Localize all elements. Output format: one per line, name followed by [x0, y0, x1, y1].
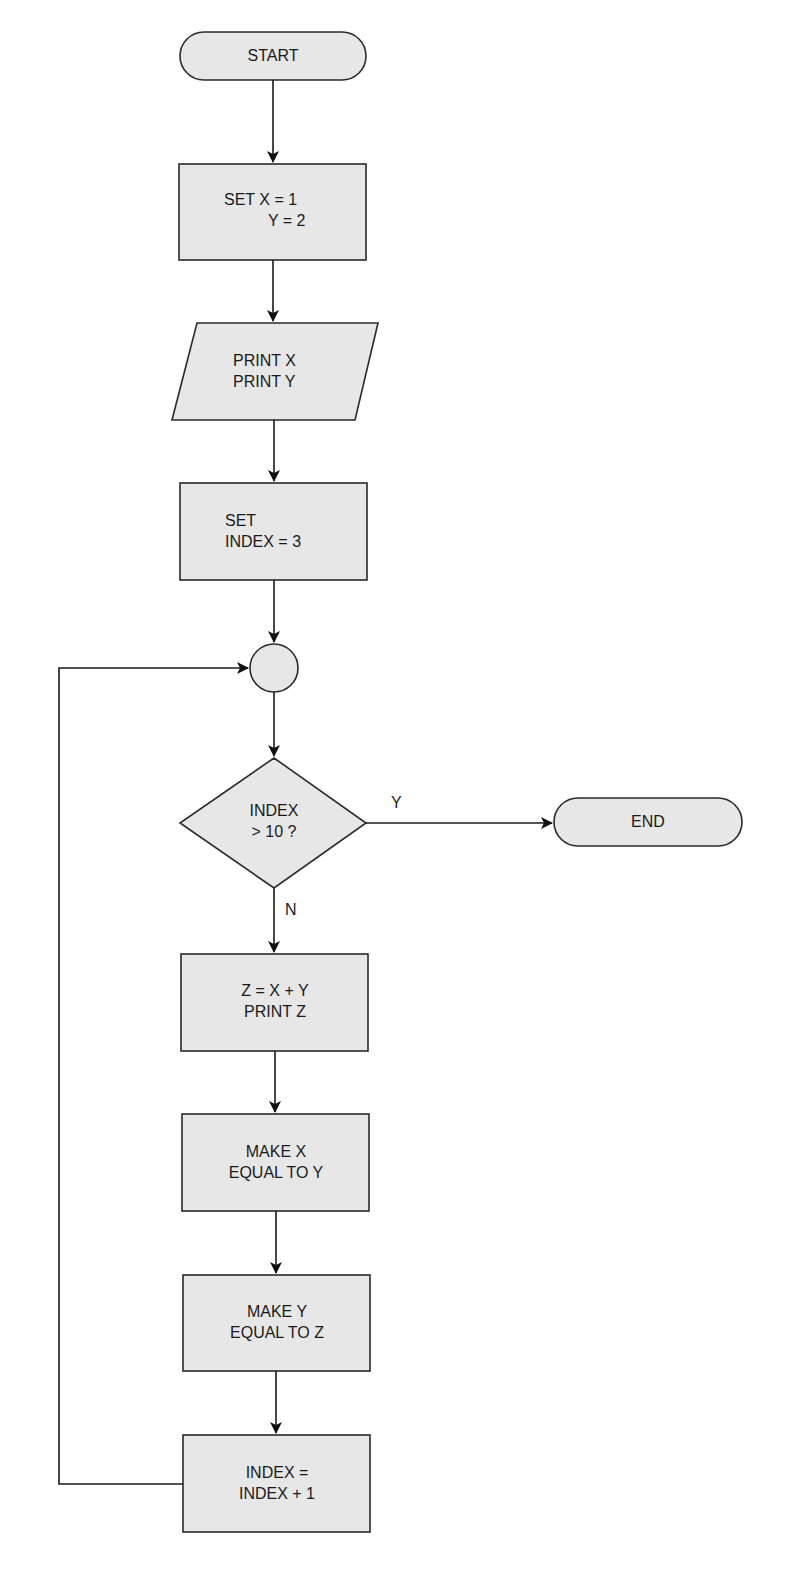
flowchart-canvas	[0, 0, 788, 1578]
compute-line2: PRINT Z	[244, 1001, 306, 1022]
start-label: START	[248, 45, 299, 66]
no-branch-label: N	[285, 899, 297, 920]
make-x-line2: EQUAL TO Y	[229, 1162, 324, 1183]
make-y-line2: EQUAL TO Z	[230, 1322, 324, 1343]
yes-branch-label: Y	[391, 792, 402, 813]
make-x-line1: MAKE X	[246, 1141, 306, 1162]
increment-line2: INDEX + 1	[239, 1483, 315, 1504]
init-line2: Y = 2	[268, 210, 306, 231]
make-y-line1: MAKE Y	[247, 1301, 307, 1322]
print-line2: PRINT Y	[233, 371, 296, 392]
decision-line2: > 10 ?	[252, 821, 297, 842]
loop-connector-circle	[250, 644, 298, 692]
decision-line1: INDEX	[250, 800, 299, 821]
init-line1: SET X = 1	[224, 189, 297, 210]
end-label: END	[631, 811, 665, 832]
compute-line1: Z = X + Y	[241, 980, 308, 1001]
increment-line1: INDEX =	[246, 1462, 309, 1483]
print-line1: PRINT X	[233, 350, 296, 371]
set-index-line2: INDEX = 3	[225, 531, 301, 552]
set-index-line1: SET	[225, 510, 256, 531]
